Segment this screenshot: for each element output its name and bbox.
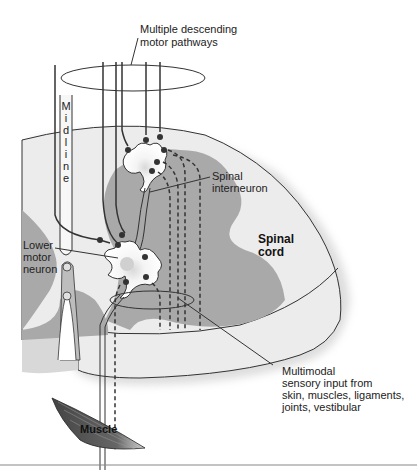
svg-text:i: i	[65, 112, 67, 124]
svg-text:n: n	[63, 160, 69, 172]
interneuron-label-1: Spinal	[212, 170, 243, 182]
interneuron-label-2: interneuron	[212, 182, 268, 194]
sensory-label-3: skin, muscles, ligaments,	[282, 389, 404, 401]
svg-text:d: d	[63, 124, 69, 136]
sensory-label-4: joints, vestibular	[281, 401, 361, 413]
svg-text:M: M	[61, 100, 70, 112]
svg-text:i: i	[65, 148, 67, 160]
descending-label-2: motor pathways	[140, 36, 218, 48]
descending-leader-line	[131, 38, 138, 65]
lmn-label-1: Lower	[23, 239, 53, 251]
cord-label-1: Spinal	[258, 232, 294, 246]
svg-text:e: e	[63, 172, 69, 184]
descending-pathways-ellipse	[61, 65, 205, 91]
muscle-label: Muscle	[80, 423, 117, 435]
svg-text:l: l	[65, 136, 67, 148]
spinal-cord-diagram: Multiple descending motor pathways M i d…	[0, 0, 417, 471]
cord-label-2: cord	[258, 245, 284, 259]
sensory-label-2: sensory input from	[282, 377, 372, 389]
lmn-label-3: neuron	[23, 263, 57, 275]
sensory-label-1: Multimodal	[282, 365, 335, 377]
descending-label-1: Multiple descending	[140, 23, 237, 35]
lmn-label-2: motor	[23, 251, 51, 263]
